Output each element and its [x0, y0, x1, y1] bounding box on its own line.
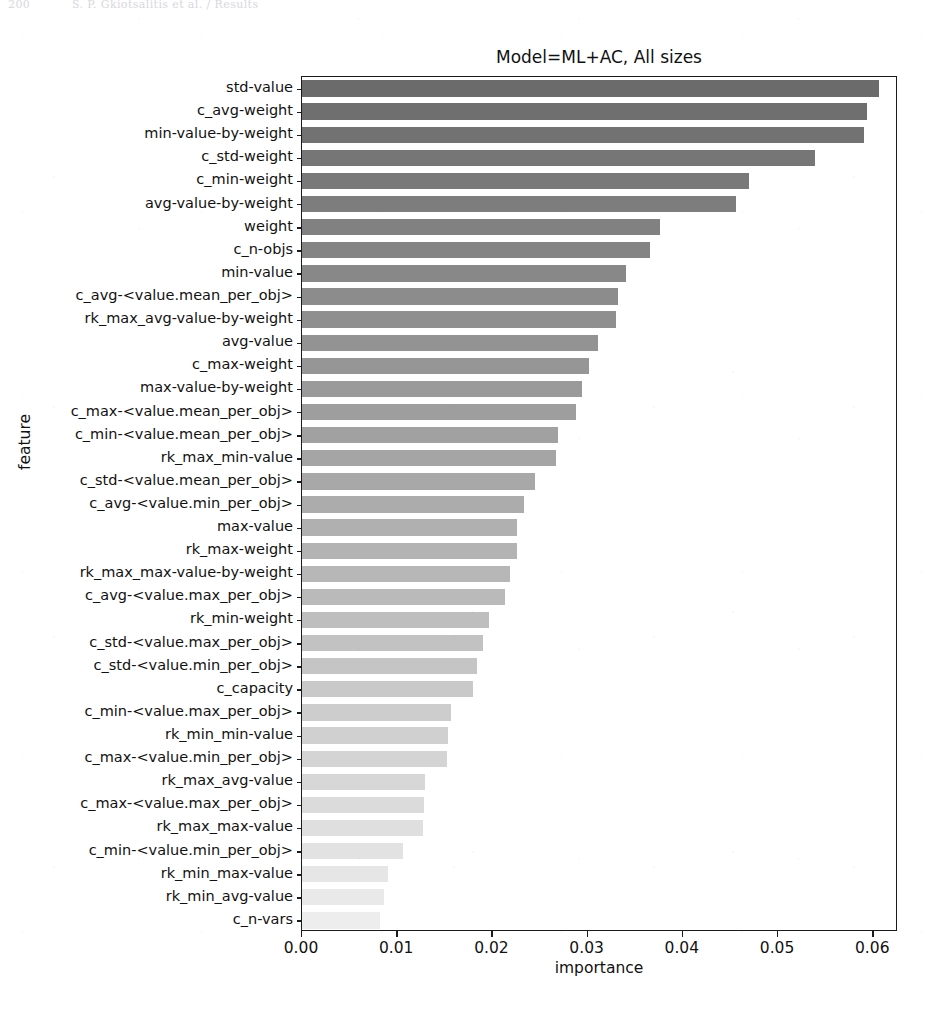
bar [302, 681, 473, 697]
x-tick-label: 0.02 [474, 939, 509, 957]
y-tick-label: c_min-<value.min_per_obj> [0, 839, 293, 862]
bar [302, 797, 424, 813]
bar-row [302, 146, 896, 169]
y-tick-label: rk_min_max-value [0, 862, 293, 885]
y-tick-label: weight [0, 215, 293, 238]
y-tick-label: rk_max_min-value [0, 446, 293, 469]
y-tick-label: rk_max_max-value [0, 815, 293, 838]
bar-row [302, 562, 896, 585]
bar [302, 288, 618, 304]
bar-row [302, 863, 896, 886]
bar [302, 496, 524, 512]
bar [302, 150, 815, 166]
bar-row [302, 193, 896, 216]
bar [302, 612, 489, 628]
x-tick-mark [396, 931, 397, 937]
bar-row [302, 100, 896, 123]
bar [302, 774, 425, 790]
bar [302, 335, 598, 351]
bar [302, 196, 736, 212]
bar [302, 473, 535, 489]
bar-row [302, 123, 896, 146]
y-tick-label: max-value [0, 515, 293, 538]
bar [302, 219, 660, 235]
y-tick-label: c_min-<value.mean_per_obj> [0, 423, 293, 446]
feature-importance-figure: Model=ML+AC, All sizes feature std-value… [0, 0, 947, 1016]
bar [302, 843, 403, 859]
y-tick-label: c_avg-<value.mean_per_obj> [0, 284, 293, 307]
y-tick-label: c_std-weight [0, 145, 293, 168]
bar [302, 658, 477, 674]
y-tick-label: c_min-<value.max_per_obj> [0, 700, 293, 723]
bar [302, 404, 576, 420]
bar [302, 751, 447, 767]
bar [302, 727, 448, 743]
bar-row [302, 585, 896, 608]
y-tick-label: c_max-<value.min_per_obj> [0, 746, 293, 769]
x-tick-label: 0.00 [284, 939, 319, 957]
bar-row [302, 747, 896, 770]
y-tick-label: c_max-<value.mean_per_obj> [0, 400, 293, 423]
x-tick-label: 0.06 [855, 939, 890, 957]
bar [302, 242, 650, 258]
bar-row [302, 632, 896, 655]
bar-row [302, 239, 896, 262]
bar [302, 566, 510, 582]
y-tick-label: min-value [0, 261, 293, 284]
plot-area [301, 76, 897, 931]
y-tick-label: c_n-objs [0, 238, 293, 261]
bar [302, 427, 558, 443]
bar-row [302, 377, 896, 400]
bar-row [302, 447, 896, 470]
bar-row [302, 308, 896, 331]
y-tick-label: c_n-vars [0, 908, 293, 931]
bar [302, 912, 380, 928]
x-tick-mark [491, 931, 492, 937]
x-tick-mark [682, 931, 683, 937]
y-tick-label: rk_min-weight [0, 607, 293, 630]
bar [302, 103, 867, 119]
bar [302, 381, 582, 397]
y-tick-label: c_max-weight [0, 353, 293, 376]
y-tick-label: c_avg-<value.max_per_obj> [0, 584, 293, 607]
bar [302, 889, 384, 905]
y-tick-label: rk_max_avg-value [0, 769, 293, 792]
bar-row [302, 77, 896, 100]
bar [302, 635, 483, 651]
y-axis-tick-labels: std-valuec_avg-weightmin-value-by-weight… [0, 76, 293, 931]
bar-row [302, 701, 896, 724]
x-axis-title: importance [301, 959, 897, 977]
y-tick-label: c_min-weight [0, 168, 293, 191]
bar [302, 704, 451, 720]
x-tick-label: 0.05 [760, 939, 795, 957]
y-tick-label: rk_max_avg-value-by-weight [0, 307, 293, 330]
y-tick-label: rk_min_avg-value [0, 885, 293, 908]
bar [302, 866, 388, 882]
bar [302, 543, 517, 559]
bar [302, 358, 589, 374]
bar-row [302, 840, 896, 863]
bar [302, 173, 749, 189]
bar-row [302, 354, 896, 377]
bar [302, 820, 423, 836]
bar-row [302, 886, 896, 909]
bar [302, 80, 879, 96]
bar-row [302, 724, 896, 747]
bar-row [302, 816, 896, 839]
bar-row [302, 401, 896, 424]
y-tick-label: rk_min_min-value [0, 723, 293, 746]
y-tick-label: avg-value [0, 330, 293, 353]
bar-row [302, 493, 896, 516]
x-tick-mark [301, 931, 302, 937]
bar-row [302, 770, 896, 793]
bar-row [302, 262, 896, 285]
bar-row [302, 655, 896, 678]
x-tick-mark [777, 931, 778, 937]
y-tick-label: c_std-<value.min_per_obj> [0, 654, 293, 677]
x-tick-label: 0.03 [569, 939, 604, 957]
y-tick-label: avg-value-by-weight [0, 192, 293, 215]
y-tick-label: rk_max-weight [0, 538, 293, 561]
y-tick-label: c_capacity [0, 677, 293, 700]
bar-row [302, 678, 896, 701]
x-tick-mark [872, 931, 873, 937]
